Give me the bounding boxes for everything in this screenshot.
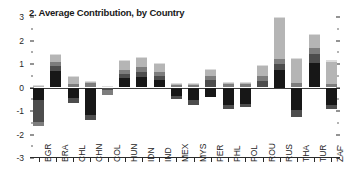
bar-segment bbox=[102, 90, 113, 94]
bar-segment bbox=[85, 88, 96, 115]
x-axis-tick bbox=[108, 158, 109, 162]
bar-segment bbox=[136, 67, 147, 72]
bar-segment bbox=[68, 76, 79, 84]
chart-container: 2. Average Contribution, by Country 3210… bbox=[0, 0, 345, 184]
x-axis-label-rus: RUS bbox=[284, 144, 294, 162]
bar-segment bbox=[33, 88, 44, 101]
bar-segment bbox=[119, 74, 130, 78]
bar-segment bbox=[171, 96, 182, 99]
bar-segment bbox=[33, 100, 44, 121]
bar-phl[interactable] bbox=[223, 17, 234, 158]
bar-segment bbox=[85, 115, 96, 121]
bar-segment bbox=[205, 80, 216, 87]
bar-segment bbox=[309, 54, 320, 63]
bar-segment bbox=[171, 85, 182, 88]
x-axis-label-phl: PHL bbox=[232, 145, 242, 162]
bar-segment bbox=[291, 58, 302, 59]
bar-segment bbox=[205, 76, 216, 80]
bar-segment bbox=[326, 62, 337, 84]
x-axis-tick bbox=[331, 158, 332, 162]
x-axis-label-idn: IDN bbox=[146, 147, 156, 162]
bar-mys[interactable] bbox=[188, 17, 199, 158]
x-axis-label-col: COL bbox=[112, 145, 122, 162]
y-axis-minor-tick-right bbox=[337, 122, 339, 123]
bar-segment bbox=[291, 59, 302, 83]
bar-segment bbox=[33, 86, 44, 87]
bar-hun[interactable] bbox=[119, 17, 130, 158]
bar-segment bbox=[188, 88, 199, 101]
bar-rus[interactable] bbox=[274, 17, 285, 158]
bar-segment bbox=[119, 60, 130, 61]
bar-col[interactable] bbox=[102, 17, 113, 158]
bar-segment bbox=[50, 62, 61, 66]
y-axis-minor-tick-right bbox=[337, 75, 339, 76]
bar-segment bbox=[274, 59, 285, 64]
y-axis-minor-tick-right bbox=[337, 99, 339, 100]
bar-tha[interactable] bbox=[291, 17, 302, 158]
bar-segment bbox=[223, 82, 234, 83]
plot-area bbox=[30, 17, 340, 158]
bar-segment bbox=[326, 105, 337, 109]
x-axis-label-tur: TUR bbox=[318, 145, 328, 162]
bar-mex[interactable] bbox=[171, 17, 182, 158]
bar-segment bbox=[50, 71, 61, 87]
bar-segment bbox=[85, 82, 96, 83]
bar-ind[interactable] bbox=[154, 17, 165, 158]
bar-chl[interactable] bbox=[68, 17, 79, 158]
bar-segment bbox=[85, 81, 96, 82]
bar-segment bbox=[326, 60, 337, 61]
bar-segment bbox=[68, 88, 79, 99]
bar-segment bbox=[136, 77, 147, 88]
y-axis-minor-tick-right bbox=[337, 28, 339, 29]
bar-rou[interactable] bbox=[257, 17, 268, 158]
bar-segment bbox=[188, 100, 199, 104]
bar-idn[interactable] bbox=[136, 17, 147, 158]
bar-segment bbox=[257, 65, 268, 66]
bar-segment bbox=[223, 88, 234, 106]
x-axis-label-pol: POL bbox=[249, 145, 259, 162]
x-axis-label-mex: MEX bbox=[180, 144, 190, 162]
bar-segment bbox=[136, 58, 147, 67]
bar-segment bbox=[50, 55, 61, 62]
x-axis-tick bbox=[245, 158, 246, 162]
x-axis-label-per: PER bbox=[215, 145, 225, 162]
bar-tur[interactable] bbox=[309, 17, 320, 158]
bar-segment bbox=[240, 104, 251, 107]
x-axis-tick bbox=[280, 158, 281, 162]
x-axis-label-tha: THA bbox=[301, 145, 311, 162]
x-axis-tick bbox=[73, 158, 74, 162]
bar-segment bbox=[326, 88, 337, 106]
bar-segment bbox=[154, 64, 165, 72]
bar-segment bbox=[309, 63, 320, 88]
x-axis-tick bbox=[263, 158, 264, 162]
bar-per[interactable] bbox=[205, 17, 216, 158]
y-axis-label: 3 bbox=[19, 12, 24, 22]
y-axis-label: -3 bbox=[16, 153, 24, 163]
bar-segment bbox=[257, 66, 268, 77]
bar-segment bbox=[309, 48, 320, 54]
bar-pol[interactable] bbox=[240, 17, 251, 158]
bar-segment bbox=[205, 70, 216, 77]
x-axis-tick bbox=[314, 158, 315, 162]
bar-segment bbox=[240, 84, 251, 88]
bar-segment bbox=[154, 80, 165, 88]
y-axis-label: 0 bbox=[19, 83, 24, 93]
x-axis-label-mys: MYS bbox=[198, 144, 208, 162]
bar-segment bbox=[171, 83, 182, 84]
bar-zaf[interactable] bbox=[326, 17, 337, 158]
bar-segment bbox=[68, 84, 79, 88]
x-axis-label-hun: HUN bbox=[129, 144, 139, 162]
bar-bgr[interactable] bbox=[33, 17, 44, 158]
bar-segment bbox=[205, 69, 216, 70]
bar-segment bbox=[136, 57, 147, 58]
bar-bra[interactable] bbox=[50, 17, 61, 158]
x-axis-tick bbox=[125, 158, 126, 162]
bar-segment bbox=[119, 60, 130, 70]
y-axis-label: 2 bbox=[19, 36, 24, 46]
bar-segment bbox=[291, 88, 302, 110]
bar-segment bbox=[136, 72, 147, 77]
y-axis-minor-tick-right bbox=[337, 52, 339, 53]
bar-segment bbox=[33, 85, 44, 86]
bar-chn[interactable] bbox=[85, 17, 96, 158]
x-axis-tick bbox=[228, 158, 229, 162]
